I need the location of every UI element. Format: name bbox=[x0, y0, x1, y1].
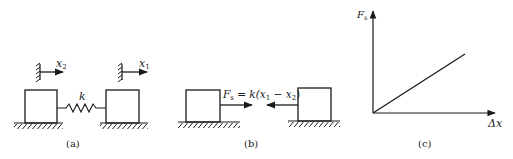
mass-block-2-free-body bbox=[186, 90, 220, 122]
force-displacement-line bbox=[373, 54, 465, 113]
caption-b: (b) bbox=[244, 138, 258, 149]
mass-block-1-free-body bbox=[298, 88, 331, 121]
spring-force-diagram: k x2 x1 (a) bbox=[0, 0, 513, 159]
svg-text:x1: x1 bbox=[139, 57, 150, 71]
caption-a: (a) bbox=[66, 138, 80, 149]
mass-block-2 bbox=[25, 90, 57, 123]
ground-right-b bbox=[288, 121, 340, 127]
caption-c: (c) bbox=[418, 138, 432, 149]
ground-left-a bbox=[14, 123, 63, 129]
y-axis-label: Fs bbox=[356, 9, 367, 22]
x-axis-label: Δx bbox=[487, 117, 503, 130]
ground-left-b bbox=[178, 122, 240, 128]
spring-force-equation: Fs = k(x1 − x2) bbox=[222, 88, 300, 102]
panel-c: Fs Δx (c) bbox=[356, 9, 503, 149]
displacement-reference-x2: x2 bbox=[36, 57, 67, 82]
spring bbox=[57, 104, 106, 112]
panel-b: Fs = k(x1 − x2) (b) bbox=[178, 88, 340, 149]
panel-a: k x2 x1 (a) bbox=[14, 57, 150, 149]
spring-constant-label: k bbox=[79, 90, 86, 103]
svg-text:x2: x2 bbox=[56, 57, 67, 71]
ground-right-a bbox=[100, 123, 148, 129]
mass-block-1 bbox=[106, 90, 139, 123]
displacement-reference-x1: x1 bbox=[118, 57, 150, 82]
